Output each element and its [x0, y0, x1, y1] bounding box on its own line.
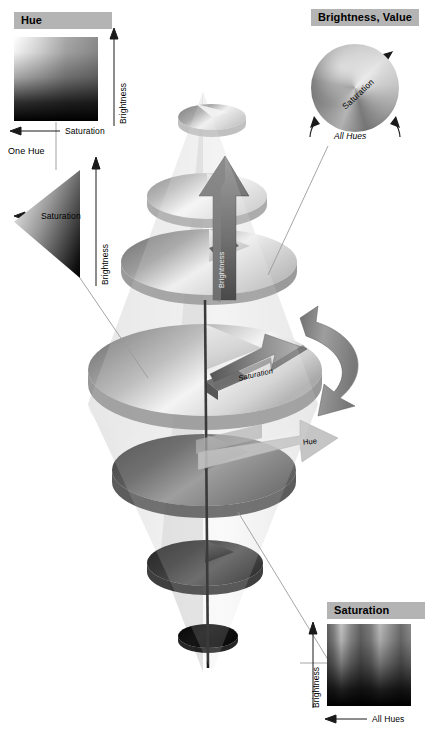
hue-panel-brightness-label: Brightness — [118, 83, 128, 124]
saturation-panel-brightness-label: Brightness — [311, 667, 321, 708]
cone-hue-label: Hue — [303, 436, 318, 446]
sphere-shading-overlay — [311, 44, 399, 132]
cone-front-glass — [88, 92, 318, 672]
one-hue-brightness-label: Brightness — [100, 244, 110, 285]
saturation-panel-all-hues-axis — [325, 715, 367, 723]
sphere-all-hues-label: All Hues — [334, 131, 366, 141]
one-hue-brightness-axis — [92, 157, 100, 286]
hue-gradient-swatch — [14, 37, 98, 121]
hue-panel-title: Hue — [14, 12, 112, 29]
saturation-gradient-swatch — [327, 624, 411, 706]
one-hue-saturation-label: Saturation — [41, 211, 81, 221]
one-hue-caption: One Hue — [8, 146, 45, 156]
hue-panel-brightness-axis — [110, 28, 118, 126]
cone-brightness-label: Brightness — [217, 252, 226, 288]
brightness-value-panel-title: Brightness, Value — [311, 9, 419, 26]
hue-panel-saturation-axis — [10, 127, 60, 135]
saturation-panel-title: Saturation — [327, 602, 425, 619]
hue-panel-saturation-label: Saturation — [65, 126, 105, 136]
saturation-panel-all-hues-label: All Hues — [372, 714, 404, 724]
